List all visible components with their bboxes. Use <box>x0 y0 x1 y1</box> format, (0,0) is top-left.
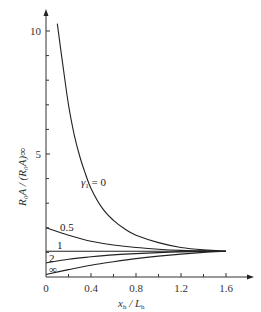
x-tick-label: 1.2 <box>174 282 188 294</box>
curve-label-infinity: ∞ <box>49 263 57 275</box>
x-tick-label: 1.6 <box>219 282 233 294</box>
x-axis-title: xh / Lh <box>117 297 145 311</box>
x-tick-label: 0.8 <box>129 282 143 294</box>
y-tick-label: 10 <box>30 25 42 37</box>
axes <box>44 9 255 280</box>
curve-label-gamma-0: γ1 = 0 <box>81 176 107 190</box>
y-tick-label: 5 <box>36 148 42 160</box>
x-tick-label: 0 <box>43 282 49 294</box>
curve-label-1: 1 <box>57 239 63 251</box>
y-axis-title: R₀A / (R₀A)∞ <box>16 148 29 207</box>
x-tick-label: 0.4 <box>84 282 98 294</box>
x-axis-arrow-icon <box>247 275 254 280</box>
y-axis-arrow-icon <box>44 9 49 16</box>
curve-series-0 <box>57 24 226 252</box>
curve-label-0-5: 0.5 <box>60 221 74 233</box>
chart-canvas: 10 5 0 0.4 0.8 1.2 1.6 xh / Lh R₀A / (R₀… <box>0 0 261 312</box>
ticks <box>46 31 226 277</box>
curve-series-4 <box>46 251 226 274</box>
curves <box>46 24 226 275</box>
